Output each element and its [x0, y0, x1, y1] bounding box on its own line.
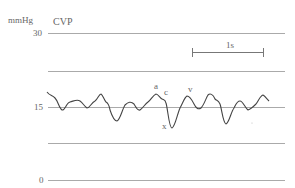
chart-plot	[0, 0, 295, 188]
cvp-waveform	[47, 92, 269, 128]
stray-mark	[251, 122, 252, 123]
scale-bar	[192, 48, 264, 57]
